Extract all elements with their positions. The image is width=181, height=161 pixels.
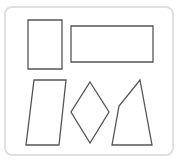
shapes-canvas	[0, 0, 181, 161]
tall-rectangle	[28, 20, 62, 69]
wide-rectangle	[71, 26, 153, 62]
irregular-quadrilateral	[112, 80, 152, 145]
parallelogram	[26, 80, 66, 145]
rhombus	[71, 82, 109, 143]
